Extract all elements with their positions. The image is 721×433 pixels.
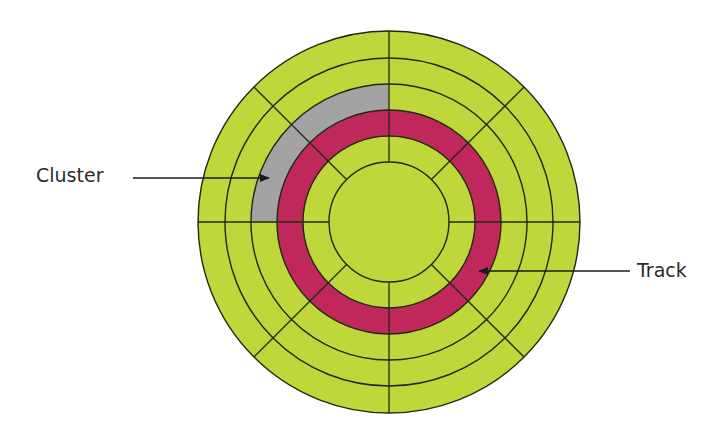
disk-diagram bbox=[0, 0, 721, 433]
cluster-label: Cluster bbox=[36, 166, 103, 185]
track-label: Track bbox=[637, 261, 687, 280]
platter bbox=[198, 31, 580, 413]
